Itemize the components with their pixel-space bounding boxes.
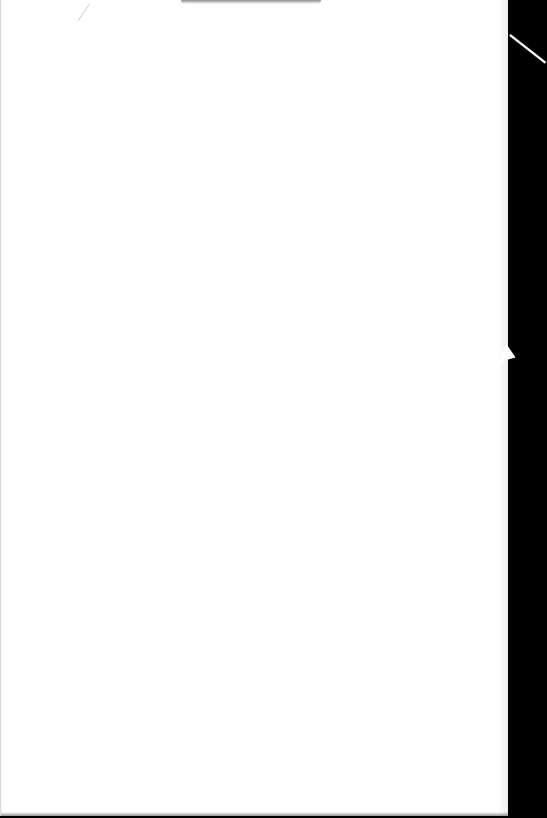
top-edge-shadow [181,0,321,4]
fold-mark [78,4,90,21]
corner-tear [509,34,546,63]
bottom-edge-shadow [1,812,508,816]
page-edge-fringe [498,0,508,816]
scanned-document [0,0,547,818]
blank-page [0,0,508,816]
